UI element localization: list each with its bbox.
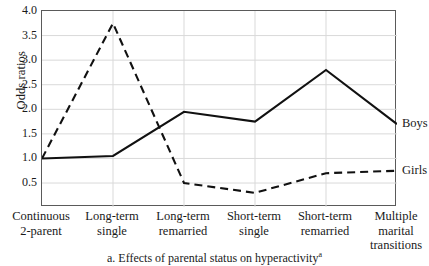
y-tick-label: 2.5 xyxy=(6,78,37,90)
figure-caption: a. Effects of parental status on hyperac… xyxy=(0,251,429,265)
y-tick-label: 0.5 xyxy=(6,176,37,188)
y-tick-label: 1.5 xyxy=(6,127,37,139)
series-line-boys xyxy=(42,70,397,158)
figure-hyperactivity-odds-ratios: Odds ratios 4.03.53.02.52.01.51.00.5 Con… xyxy=(0,0,429,266)
x-category-label: Multiple marital transitions xyxy=(348,209,429,253)
y-tick-label: 2.0 xyxy=(6,102,37,114)
series-line-girls xyxy=(42,23,397,193)
plot-area xyxy=(41,10,396,206)
series-label-girls: Girls xyxy=(402,163,427,176)
y-tick-label: 1.0 xyxy=(6,151,37,163)
y-tick-label: 4.0 xyxy=(6,4,37,16)
caption-text: Effects of parental status on hyperactiv… xyxy=(118,251,318,265)
series-label-boys: Boys xyxy=(402,117,428,130)
caption-superscript: a xyxy=(318,250,322,259)
y-tick-label: 3.5 xyxy=(6,29,37,41)
chart-canvas xyxy=(42,11,397,207)
y-tick-label: 3.0 xyxy=(6,53,37,65)
caption-prefix: a. xyxy=(107,251,115,265)
